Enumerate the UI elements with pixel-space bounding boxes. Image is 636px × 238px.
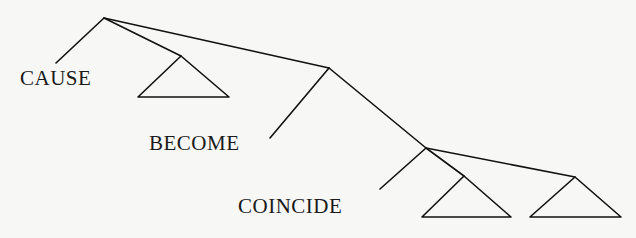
edge-root-triangle1	[104, 18, 181, 56]
edge-node2-become	[270, 68, 329, 138]
triangle-subtree-2	[422, 176, 511, 217]
edge-node3-triangle3	[426, 148, 575, 177]
label-coincide: COINCIDE	[238, 196, 342, 217]
edge-root-cause	[56, 18, 104, 63]
label-cause: CAUSE	[20, 68, 91, 89]
edge-root-node2	[104, 18, 329, 68]
triangle-subtree-3	[530, 177, 621, 217]
triangle-subtree-1	[138, 56, 229, 97]
label-become: BECOME	[149, 133, 240, 154]
tree-diagram: CAUSE BECOME COINCIDE	[0, 0, 636, 238]
edge-node3-coincide	[380, 148, 426, 189]
edge-node2-node3	[329, 68, 426, 148]
